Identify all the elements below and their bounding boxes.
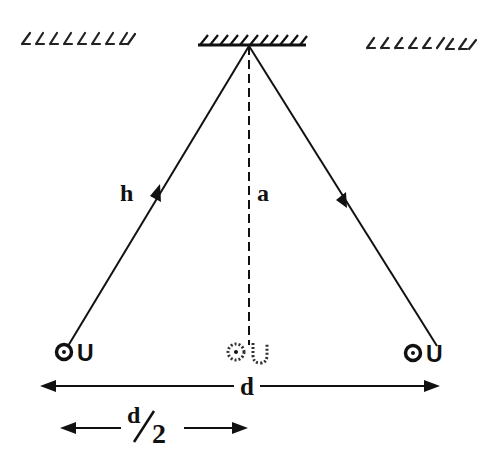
half-separation-dimension: d 2: [60, 402, 248, 449]
arrow-right-icon: [424, 380, 440, 392]
left-source-label: U: [77, 340, 94, 366]
label-a: a: [257, 180, 269, 206]
label-half-d: d: [127, 402, 141, 428]
right-source: U: [406, 341, 443, 367]
arrow-right-icon: [232, 422, 248, 434]
arrow-left-icon: [40, 380, 56, 392]
label-d: d: [240, 373, 254, 400]
reflection-diagram: h a U U d d 2: [0, 0, 493, 466]
label-h: h: [120, 180, 133, 206]
right-source-label: U: [426, 341, 443, 367]
arrow-left-icon: [60, 422, 76, 434]
separation-dimension: d: [40, 373, 440, 400]
image-source-u-icon: [253, 343, 267, 363]
right-ceiling-hatch: [367, 38, 476, 49]
left-ceiling-hatch: [22, 33, 135, 44]
center-ceiling: [198, 35, 307, 45]
label-half-2: 2: [152, 418, 166, 449]
left-source: U: [57, 340, 94, 366]
center-image-source: [228, 343, 267, 363]
